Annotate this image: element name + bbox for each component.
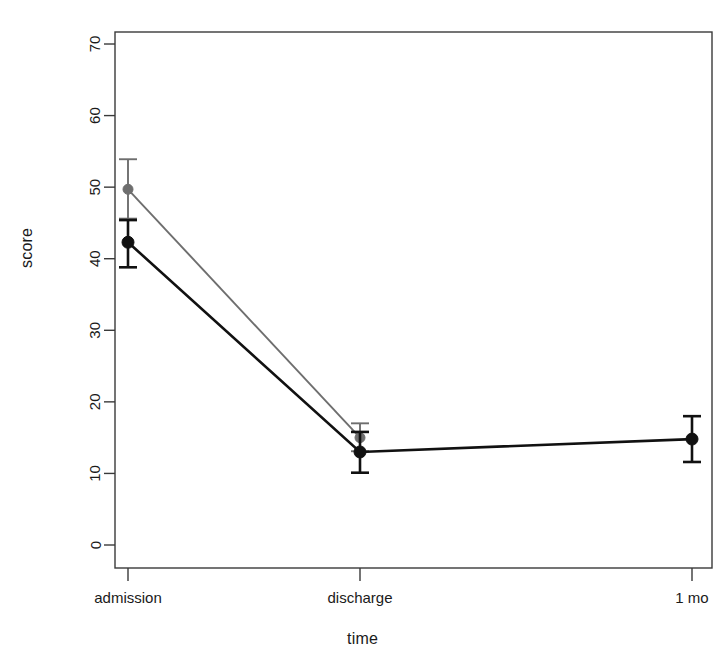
y-tick-label: 60 — [87, 107, 104, 124]
x-tick-label: 1 mo — [675, 589, 708, 606]
data-point-marker — [354, 446, 366, 458]
series-line — [128, 189, 360, 437]
y-tick-label: 50 — [87, 179, 104, 196]
plot-border — [115, 32, 712, 568]
x-axis: admissiondischarge1 mo — [94, 568, 708, 606]
data-series-group — [119, 159, 701, 472]
y-tick-label: 0 — [87, 541, 104, 549]
x-axis-title: time — [0, 630, 725, 648]
line-chart-plot: 010203040506070 admissiondischarge1 mo — [0, 0, 725, 667]
data-point-marker — [122, 236, 134, 248]
series-line — [128, 242, 692, 452]
y-axis: 010203040506070 — [87, 36, 116, 550]
y-axis-title: score — [18, 228, 36, 268]
x-tick-label: discharge — [327, 589, 392, 606]
chart-container: 010203040506070 admissiondischarge1 mo s… — [0, 0, 725, 667]
y-tick-label: 10 — [87, 465, 104, 482]
y-tick-label: 20 — [87, 394, 104, 411]
data-point-marker — [686, 433, 698, 445]
y-tick-label: 40 — [87, 250, 104, 267]
y-tick-label: 70 — [87, 36, 104, 53]
data-point-marker — [123, 184, 133, 194]
x-tick-label: admission — [94, 589, 162, 606]
plot-frame — [115, 32, 712, 568]
y-tick-label: 30 — [87, 322, 104, 339]
